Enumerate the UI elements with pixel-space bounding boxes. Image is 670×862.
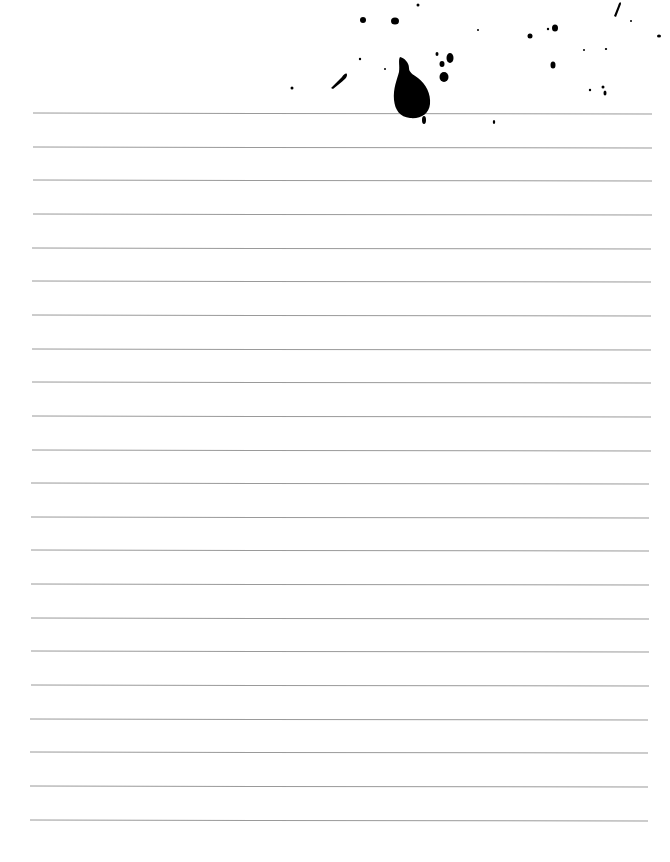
ink-dot — [447, 53, 454, 63]
ink-dot — [630, 20, 632, 22]
ink-dot — [384, 68, 386, 70]
ink-drop — [394, 57, 430, 118]
ink-dot — [360, 17, 366, 23]
ink-streak — [331, 74, 347, 89]
ink-dot — [391, 18, 399, 25]
ink-dot — [493, 120, 495, 124]
ink-dot — [602, 86, 605, 89]
ink-dot — [605, 48, 607, 50]
ink-dot — [528, 34, 533, 39]
ink-dot — [440, 72, 449, 82]
ink-dot — [436, 52, 439, 56]
ink-dot — [657, 35, 661, 38]
ink-dot — [552, 25, 558, 32]
ink-dot — [291, 87, 294, 90]
ink-dot — [422, 116, 426, 124]
ink-dot — [359, 58, 361, 60]
ink-dot — [547, 28, 549, 30]
ink-dot — [417, 4, 420, 7]
ink-dot — [583, 49, 585, 51]
ink-splatter — [0, 0, 670, 862]
ink-dot — [477, 29, 479, 31]
ink-dot — [589, 89, 591, 91]
ink-dot — [604, 91, 607, 96]
ink-dot — [440, 61, 445, 67]
ink-dot — [551, 62, 556, 69]
lined-paper-page — [0, 0, 670, 862]
ink-streak — [614, 2, 621, 17]
